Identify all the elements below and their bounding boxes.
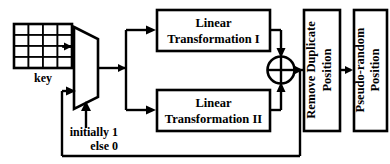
wire-mux-output-bus bbox=[98, 26, 156, 115]
xor-gate-icon bbox=[268, 57, 295, 84]
wire-xor-to-remove-duplicate bbox=[295, 66, 304, 156]
wire-lt1-to-xor bbox=[270, 30, 286, 58]
wire-lt2-to-xor bbox=[270, 82, 286, 110]
mux-select-label-line1: initially 1 bbox=[70, 125, 118, 139]
lt1-label-line1: Linear bbox=[195, 16, 232, 30]
key-label: key bbox=[34, 71, 52, 85]
lt2-label-line1: Linear bbox=[195, 96, 232, 110]
mux-select-label-line2: else 0 bbox=[90, 139, 118, 153]
remove-duplicate-label-line2: Position bbox=[320, 48, 334, 91]
wire-remove-to-pseudo bbox=[340, 66, 353, 74]
pseudo-random-label-line1: Pseudo-random bbox=[353, 27, 367, 112]
multiplexer-icon bbox=[74, 27, 98, 109]
pseudo-random-label-line2: Position bbox=[368, 48, 382, 91]
lt1-label-line2: Transformation I bbox=[167, 32, 260, 46]
lt2-label-line2: Transformation II bbox=[165, 112, 262, 126]
remove-duplicate-label-line1: Remove Duplicate bbox=[304, 21, 318, 119]
block-diagram: key bbox=[0, 0, 390, 164]
diagram-canvas: key bbox=[0, 0, 390, 164]
